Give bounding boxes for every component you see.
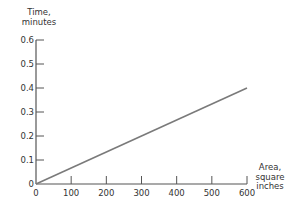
- y-axis-title: minutes: [22, 17, 57, 27]
- x-axis-title: Area,: [259, 162, 281, 172]
- x-tick-label: 600: [239, 188, 255, 198]
- y-tick-label: 0.3: [20, 107, 34, 117]
- x-tick-label: 0: [33, 188, 38, 198]
- x-tick-label: 500: [204, 188, 220, 198]
- x-tick-label: 200: [98, 188, 114, 198]
- y-tick-label: 0.1: [20, 155, 34, 165]
- data-line: [36, 88, 247, 184]
- axes: [36, 40, 247, 184]
- y-tick-label: 0.4: [20, 83, 34, 93]
- y-tick-label: 0.5: [20, 59, 34, 69]
- axis-labels: 00.10.20.30.40.50.60100200300400500600Ti…: [20, 7, 284, 198]
- y-tick-label: 0.2: [20, 131, 34, 141]
- y-tick-label: 0.6: [20, 35, 34, 45]
- data-series: [36, 88, 247, 184]
- x-tick-label: 300: [133, 188, 149, 198]
- x-axis-title: square: [256, 172, 285, 182]
- y-axis-title: Time,: [26, 7, 51, 17]
- x-tick-label: 400: [169, 188, 185, 198]
- x-tick-label: 100: [63, 188, 79, 198]
- x-axis-title: inches: [256, 181, 284, 191]
- chart: 00.10.20.30.40.50.60100200300400500600Ti…: [0, 0, 297, 207]
